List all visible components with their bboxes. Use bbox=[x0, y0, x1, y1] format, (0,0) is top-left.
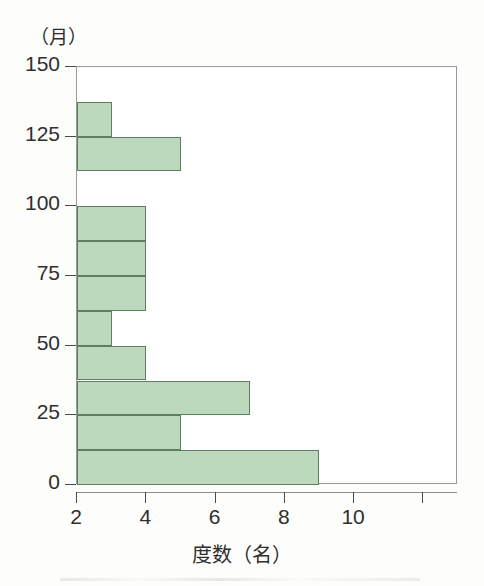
x-tick-label: 10 bbox=[341, 505, 364, 529]
histogram-bar bbox=[77, 346, 146, 381]
y-tick-mark bbox=[65, 205, 76, 206]
x-axis-title: 度数（名） bbox=[0, 539, 484, 568]
y-tick-label: 125 bbox=[0, 122, 60, 146]
x-tick-mark bbox=[76, 492, 77, 503]
y-tick-label: 100 bbox=[0, 191, 60, 215]
histogram-bar bbox=[77, 276, 146, 311]
histogram-bar bbox=[77, 450, 319, 485]
y-tick-label: 25 bbox=[0, 400, 60, 424]
x-tick-label: 2 bbox=[70, 505, 82, 529]
y-tick-label: 75 bbox=[0, 261, 60, 285]
histogram-bar bbox=[77, 381, 250, 416]
bars-layer bbox=[77, 67, 456, 483]
y-tick-label: 0 bbox=[0, 470, 60, 494]
y-tick-mark bbox=[65, 136, 76, 137]
y-tick-mark bbox=[65, 414, 76, 415]
plot-area bbox=[76, 66, 457, 484]
histogram-bar bbox=[77, 241, 146, 276]
y-tick-mark bbox=[65, 345, 76, 346]
x-tick-mark bbox=[353, 492, 354, 503]
histogram-bar bbox=[77, 137, 181, 172]
x-tick-mark bbox=[215, 492, 216, 503]
histogram-bar bbox=[77, 102, 112, 137]
y-axis-unit-label: （月） bbox=[30, 22, 87, 49]
x-tick-mark bbox=[284, 492, 285, 503]
page-edge-artifact bbox=[60, 578, 420, 581]
y-tick-mark bbox=[65, 275, 76, 276]
y-tick-label: 50 bbox=[0, 331, 60, 355]
y-tick-mark bbox=[65, 66, 76, 67]
x-tick-label: 6 bbox=[209, 505, 221, 529]
x-axis-line bbox=[76, 492, 457, 493]
histogram-bar bbox=[77, 311, 112, 346]
x-tick-label: 4 bbox=[139, 505, 151, 529]
y-tick-mark bbox=[65, 484, 76, 485]
x-tick-mark bbox=[145, 492, 146, 503]
histogram-bar bbox=[77, 415, 181, 450]
x-tick-label: 8 bbox=[278, 505, 290, 529]
x-tick-mark bbox=[422, 492, 423, 503]
histogram-figure: （月） 1501251007550250 246810 度数（名） bbox=[0, 0, 484, 586]
histogram-bar bbox=[77, 206, 146, 241]
y-tick-label: 150 bbox=[0, 52, 60, 76]
